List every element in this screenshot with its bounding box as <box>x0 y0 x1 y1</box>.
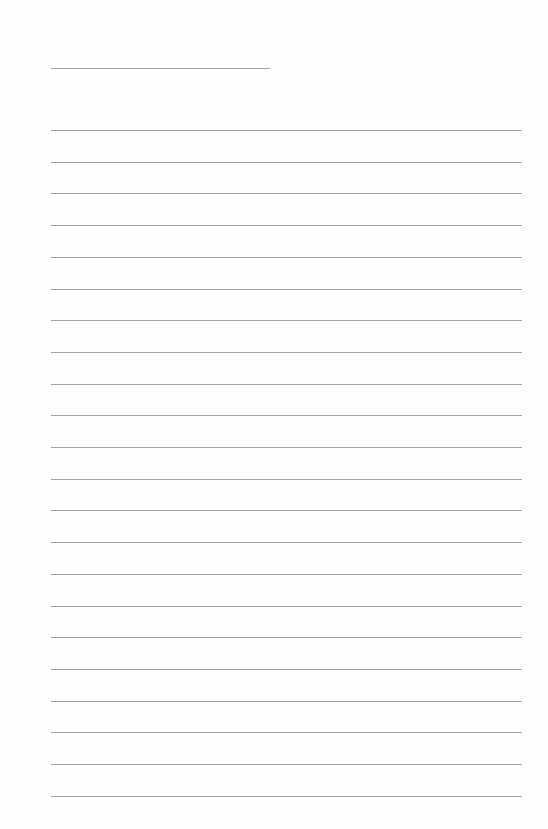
writing-line <box>51 415 522 416</box>
writing-line <box>51 352 522 353</box>
writing-line <box>51 606 522 607</box>
writing-line <box>51 257 522 258</box>
writing-line <box>51 130 522 131</box>
lined-paper-page <box>0 0 548 829</box>
writing-line <box>51 796 522 797</box>
writing-line <box>51 289 522 290</box>
writing-line <box>51 225 522 226</box>
writing-line <box>51 447 522 448</box>
writing-line <box>51 701 522 702</box>
writing-line <box>51 764 522 765</box>
writing-line <box>51 732 522 733</box>
header-name-line <box>51 68 270 69</box>
writing-line <box>51 193 522 194</box>
writing-line <box>51 162 522 163</box>
writing-line <box>51 542 522 543</box>
writing-line <box>51 320 522 321</box>
writing-line <box>51 510 522 511</box>
writing-line <box>51 637 522 638</box>
writing-line <box>51 669 522 670</box>
writing-line <box>51 384 522 385</box>
writing-line <box>51 574 522 575</box>
writing-line <box>51 479 522 480</box>
